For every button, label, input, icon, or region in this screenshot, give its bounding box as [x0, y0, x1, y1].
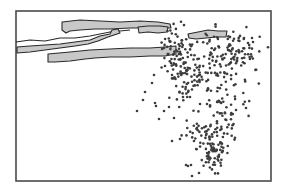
hypocenter-dot [196, 41, 199, 44]
hypocenter-dot [243, 37, 246, 40]
hypocenter-dot [209, 67, 212, 70]
hypocenter-dot [220, 128, 223, 131]
hypocenter-dot [209, 142, 212, 145]
hypocenter-dot [229, 44, 232, 47]
hypocenter-dot [199, 103, 202, 106]
hypocenter-dot [183, 24, 186, 27]
hypocenter-dot [198, 66, 201, 69]
hypocenter-dot [227, 145, 230, 148]
lower-long-slab [48, 46, 176, 62]
hypocenter-dot [242, 47, 245, 50]
hypocenter-dot [182, 99, 185, 102]
hypocenter-dot [199, 73, 202, 76]
hypocenter-dot [220, 102, 223, 105]
hypocenter-dot [182, 63, 185, 66]
hypocenter-dot [208, 62, 211, 65]
hypocenter-dot [251, 47, 254, 50]
hypocenter-dot [214, 47, 217, 50]
hypocenter-dot [216, 127, 219, 130]
hypocenter-dot [245, 107, 248, 110]
hypocenter-dot [238, 50, 241, 53]
hypocenter-dot [213, 35, 216, 38]
hypocenter-dot [205, 125, 208, 128]
hypocenter-dot [216, 101, 219, 104]
hypocenter-dot [214, 23, 217, 26]
hypocenter-dot [241, 50, 244, 53]
hypocenter-dot [189, 96, 192, 99]
hypocenter-dot [211, 59, 214, 62]
hypocenter-dot [219, 162, 222, 165]
hypocenter-dot [185, 134, 188, 137]
hypocenter-dot [163, 110, 166, 113]
hypocenter-dot [180, 53, 183, 56]
hypocenter-dot [247, 53, 250, 56]
hypocenter-dot [176, 98, 179, 101]
hypocenter-dot [179, 138, 182, 141]
hypocenter-dot [220, 159, 223, 162]
hypocenter-dot [201, 159, 204, 162]
hypocenter-dot [217, 159, 220, 162]
hypocenter-dot [151, 82, 154, 85]
hypocenter-dot [199, 145, 202, 148]
hypocenter-dot [196, 58, 199, 61]
hypocenter-dot [227, 35, 230, 38]
hypocenter-dot [176, 73, 179, 76]
hypocenter-dot [213, 161, 216, 164]
hypocenter-dot [206, 152, 209, 155]
hypocenter-dot [181, 92, 184, 95]
hypocenter-dot [155, 105, 158, 108]
hypocenter-dot [216, 131, 219, 134]
hypocenter-dot [226, 126, 229, 129]
hypocenter-dot [216, 90, 219, 93]
hypocenter-dot [234, 95, 237, 98]
hypocenter-dot [166, 70, 169, 73]
hypocenter-dot [209, 125, 212, 128]
hypocenter-dot [209, 166, 212, 169]
hypocenter-dot [214, 25, 217, 28]
hypocenter-dot [203, 55, 206, 58]
hypocenter-dot [200, 75, 203, 78]
hypocenter-dot [178, 45, 181, 48]
hypocenter-dot [174, 42, 177, 45]
hypocenter-dot [217, 172, 220, 175]
hypocenter-dot [233, 58, 236, 61]
hypocenter-dot [208, 58, 211, 61]
hypocenter-dot [216, 135, 219, 138]
hypocenter-dot [210, 53, 213, 56]
hypocenter-dot [202, 164, 205, 167]
hypocenter-dot [179, 50, 182, 53]
hypocenter-dot [226, 152, 229, 155]
hypocenter-dot [184, 86, 187, 89]
hypocenter-dot [175, 65, 178, 68]
hypocenter-dot [191, 81, 194, 84]
hypocenter-dot [163, 47, 166, 50]
hypocenter-dot [222, 136, 225, 139]
hypocenter-dot [175, 49, 178, 52]
hypocenter-dot [244, 100, 247, 103]
hypocenter-dot [217, 45, 220, 48]
hypocenter-dot [204, 137, 207, 140]
hypocenter-dot [144, 91, 147, 94]
hypocenter-dot [160, 66, 163, 69]
hypocenter-dot [193, 140, 196, 143]
hypocenter-dot [191, 132, 194, 135]
hypocenter-dot [192, 85, 195, 88]
hypocenter-dot [195, 148, 198, 151]
hypocenter-dot [211, 142, 214, 145]
hypocenter-dot [172, 53, 175, 56]
hypocenter-dot [192, 58, 195, 61]
hypocenter-dot [189, 48, 192, 51]
hypocenter-dot [219, 63, 222, 66]
hypocenter-dot [227, 49, 230, 52]
hypocenter-dot [234, 98, 237, 101]
hypocenter-dot [219, 87, 222, 90]
hypocenter-dot [160, 41, 163, 44]
hypocenter-dot [171, 140, 174, 143]
figure-canvas [0, 0, 282, 192]
hypocenter-dot [214, 172, 217, 175]
hypocenter-dot [187, 66, 190, 69]
hypocenter-dot [166, 45, 169, 48]
hypocenter-dot [173, 117, 176, 120]
hypocenter-dot [252, 41, 255, 44]
hypocenter-dot [217, 143, 220, 146]
